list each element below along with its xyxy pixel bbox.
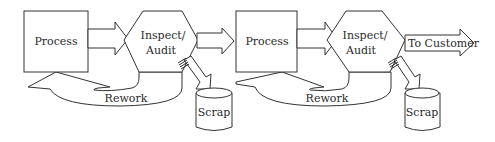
flow-arrow-2	[197, 28, 234, 54]
scrap-label-1: Scrap	[198, 106, 231, 119]
inspect-label-1b: Audit	[145, 44, 177, 57]
to-customer-label: To Customer	[408, 37, 480, 50]
flow-arrow-1	[88, 22, 128, 55]
rework-label-2: Rework	[306, 92, 349, 105]
stage-2: Process Inspect/ Audit Rework Scrap To C…	[236, 11, 480, 131]
scrap-label-2: Scrap	[406, 106, 439, 119]
inspect-label-2a: Inspect/	[343, 29, 388, 42]
stage-1: Process Inspect/ Audit Rework Scrap	[24, 11, 234, 131]
inspect-label-2b: Audit	[345, 44, 377, 57]
process-label-1: Process	[34, 35, 78, 48]
process-label-2: Process	[245, 35, 289, 48]
inspect-label-1a: Inspect/	[141, 29, 186, 42]
rework-label-1: Rework	[105, 92, 148, 105]
process-flow-diagram: Process Inspect/ Audit Rework Scrap Proc…	[0, 0, 495, 142]
